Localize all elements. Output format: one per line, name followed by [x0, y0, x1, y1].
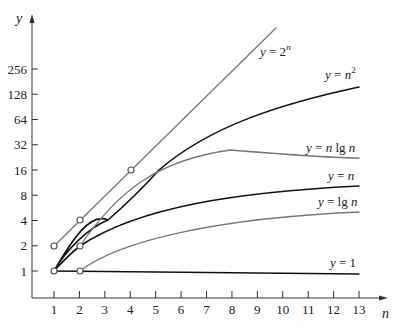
x-tick-label: 11	[302, 302, 315, 317]
y-tick-label: 64	[14, 112, 28, 127]
x-tick-label: 7	[203, 302, 210, 317]
x-tick-label: 12	[327, 302, 340, 317]
x-tick-label: 10	[276, 302, 289, 317]
y-axis-title: y	[14, 11, 23, 26]
marker-2-2	[77, 243, 83, 249]
x-tick-label: 2	[76, 302, 83, 317]
marker-2-1	[77, 268, 83, 274]
curve-2-pow-n	[54, 28, 276, 246]
label-n-squared: y = n2	[323, 65, 356, 82]
y-tick-label: 8	[21, 188, 28, 203]
y-tick-label: 128	[8, 87, 28, 102]
x-tick-label: 5	[152, 302, 159, 317]
label-n: y = n	[326, 168, 354, 183]
y-tick-label: 16	[14, 163, 28, 178]
x-tick-label: 8	[229, 302, 236, 317]
marker-2-4	[77, 217, 83, 223]
x-tick-label: 1	[51, 302, 58, 317]
curve-lg-n	[80, 212, 359, 271]
curve-constant-1	[54, 271, 359, 274]
y-tick-label: 1	[21, 264, 28, 279]
x-axis-arrow-icon	[379, 296, 388, 301]
y-tick-label: 2	[21, 238, 28, 253]
x-tick-label: 6	[178, 302, 185, 317]
label-constant-1: y = 1	[328, 255, 356, 270]
y-tick-label: 4	[21, 213, 28, 228]
x-ticks: 12345678910111213	[51, 291, 366, 317]
x-tick-label: 9	[254, 302, 261, 317]
label-lg-n: y = lg n	[316, 194, 357, 209]
complexity-growth-chart: y n 1248163264128256 12345678910111213 y…	[0, 0, 401, 328]
x-tick-label: 3	[102, 302, 109, 317]
marker-4-16	[128, 167, 134, 173]
label-2-pow-n: y = 2n	[258, 42, 291, 59]
marker-1-1	[51, 268, 57, 274]
x-tick-label: 13	[353, 302, 366, 317]
y-axis-arrow-icon	[30, 14, 35, 23]
y-tick-label: 32	[14, 137, 27, 152]
x-axis-title: n	[382, 306, 389, 321]
label-n-lg-n: y = n lg n	[304, 140, 355, 155]
y-ticks: 1248163264128256	[8, 62, 39, 279]
y-tick-label: 256	[8, 62, 28, 77]
curve-n-squared	[54, 87, 359, 271]
marker-1-2	[51, 243, 57, 249]
x-tick-label: 4	[127, 302, 134, 317]
